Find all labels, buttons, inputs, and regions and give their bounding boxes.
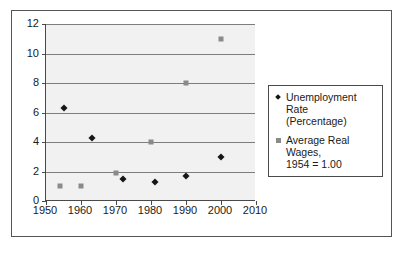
data-point [182,172,189,179]
diamond-marker-icon [274,91,286,104]
chart-legend: Unemployment Rate (Percentage)Average Re… [268,85,383,177]
gridline [46,113,255,114]
data-point [114,170,119,175]
y-axis-tick [42,142,46,143]
gridline [46,54,255,55]
x-axis-tick-label: 1990 [173,204,197,216]
legend-label: Unemployment Rate (Percentage) [286,91,377,127]
gridline [46,172,255,173]
x-axis-tick-label: 2000 [208,204,232,216]
x-axis-tick-label: 1980 [138,204,162,216]
data-point [79,184,84,189]
plot-area [45,24,255,201]
data-point [119,175,126,182]
legend-label: Average Real Wages, 1954 = 1.00 [286,134,377,170]
x-axis-tick-label: 1960 [68,204,92,216]
y-axis-tick [42,54,46,55]
legend-entry: Unemployment Rate (Percentage) [274,91,377,127]
data-point [60,105,67,112]
x-axis-tick-label: 1950 [33,204,57,216]
data-point [151,178,158,185]
gridline [46,83,255,84]
y-axis-tick [42,83,46,84]
data-point [149,140,154,145]
y-axis-tick-labels: 024681012 [18,24,39,201]
y-axis-tick [42,113,46,114]
data-point [58,184,63,189]
gridline [46,24,255,25]
y-axis-tick-label: 6 [33,107,39,118]
data-point [217,153,224,160]
y-axis-tick-label: 2 [33,166,39,177]
data-point [219,36,224,41]
data-point [88,134,95,141]
y-axis-tick-label: 4 [33,136,39,147]
y-axis-tick-label: 8 [33,77,39,88]
y-axis-tick-label: 10 [27,48,39,59]
legend-entry: Average Real Wages, 1954 = 1.00 [274,134,377,170]
y-axis-tick-label: 12 [27,18,39,29]
x-axis-tick-labels: 1950196019701980199020002010 [45,204,255,220]
data-point [184,81,189,86]
x-axis-tick-label: 2010 [243,204,267,216]
x-axis-tick-label: 1970 [103,204,127,216]
chart-figure: 024681012 1950196019701980199020002010 U… [0,0,405,253]
square-marker-icon [274,134,286,147]
y-axis-tick [42,24,46,25]
y-axis-tick [42,172,46,173]
